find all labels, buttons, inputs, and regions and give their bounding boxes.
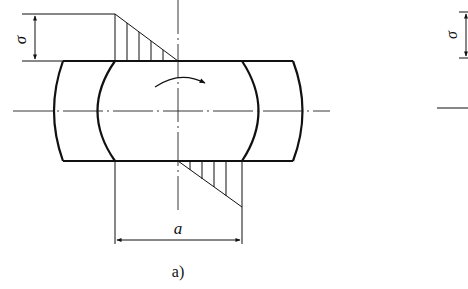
panel-label: a) — [172, 263, 184, 281]
right-panel-partial — [437, 12, 468, 108]
diagram-canvas: σ a a) σ — [0, 0, 468, 289]
rotation-arrow-icon — [155, 77, 205, 87]
top-stress-diagram — [22, 14, 178, 61]
centerlines — [13, 0, 330, 210]
a-dimension-label: a — [174, 219, 183, 238]
sigma-label: σ — [11, 35, 30, 44]
right-sigma-label: σ — [443, 30, 460, 39]
